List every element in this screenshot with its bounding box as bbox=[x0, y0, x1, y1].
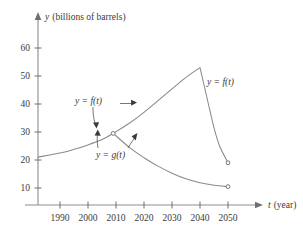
f-left-leader-line bbox=[93, 107, 96, 125]
f-left-leader-arrow-icon bbox=[93, 122, 99, 128]
y-tick-label: 50 bbox=[21, 71, 31, 81]
x-axis-unit: (year) bbox=[274, 200, 297, 211]
curve-group bbox=[38, 68, 230, 189]
x-tick-label: 2010 bbox=[107, 213, 126, 223]
x-axis-arrow-icon bbox=[255, 202, 263, 209]
x-tick-label: 1990 bbox=[51, 213, 70, 223]
y-tick-label: 10 bbox=[21, 183, 31, 193]
x-tick-label: 2050 bbox=[219, 213, 238, 223]
curve-g-of-t bbox=[113, 133, 228, 186]
f-endpoint-marker bbox=[226, 161, 230, 165]
y-tick-label: 40 bbox=[21, 99, 31, 109]
x-tick-label: 2000 bbox=[79, 213, 98, 223]
x-axis-title: t(year) bbox=[268, 200, 296, 211]
x-tick-label: 2030 bbox=[163, 213, 182, 223]
chart-figure: y(billions of barrels) t(year) 60 50 40 … bbox=[0, 0, 303, 233]
y-tick-label: 20 bbox=[21, 155, 31, 165]
f-upper-leader-arrow-icon bbox=[131, 100, 137, 106]
y-axis-arrow-icon bbox=[35, 12, 42, 20]
y-axis-unit: (billions of barrels) bbox=[52, 12, 125, 23]
x-tick-label: 2040 bbox=[191, 213, 210, 223]
curve-f-of-t bbox=[38, 68, 228, 163]
branch-point-marker bbox=[111, 132, 115, 136]
x-tick-label: 2020 bbox=[135, 213, 154, 223]
axis-group bbox=[25, 12, 263, 208]
y-axis-symbol: y bbox=[44, 12, 50, 22]
g-endpoint-marker bbox=[226, 185, 230, 189]
label-g: y = g(t) bbox=[95, 150, 125, 161]
g-right-leader-arrow-icon bbox=[132, 133, 138, 141]
label-f-right: y = f(t) bbox=[206, 77, 234, 88]
y-tick-label: 60 bbox=[21, 43, 31, 53]
g-left-leader-arrow-icon bbox=[95, 130, 101, 136]
y-axis-title: y(billions of barrels) bbox=[44, 12, 126, 23]
x-axis-symbol: t bbox=[268, 200, 271, 210]
y-tick-label: 30 bbox=[21, 127, 31, 137]
label-f-left: y = f(t) bbox=[74, 96, 102, 107]
